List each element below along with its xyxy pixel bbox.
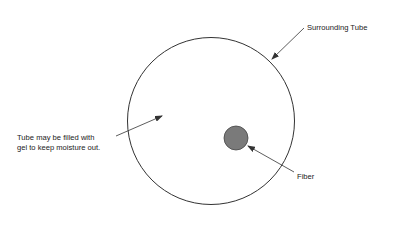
fiber-circle	[224, 126, 248, 150]
gel-label-line1: Tube may be filled with	[17, 133, 94, 143]
surrounding-tube-arrow	[272, 28, 304, 59]
gel-arrow	[116, 116, 162, 136]
surrounding-tube-label: Surrounding Tube	[307, 23, 367, 33]
surrounding-tube-circle	[128, 38, 295, 205]
fiber-arrow	[248, 146, 294, 172]
gel-label-line2: gel to keep moisture out.	[17, 143, 100, 153]
fiber-label: Fiber	[297, 172, 314, 182]
